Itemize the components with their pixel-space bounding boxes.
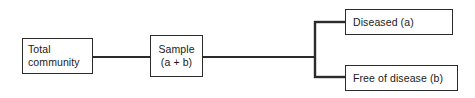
- node-sample: Sample (a + b): [150, 35, 203, 77]
- node-total-community: Total community: [22, 38, 93, 74]
- node-diseased: Diseased (a): [345, 9, 453, 35]
- node-total-community-line-1: Total: [28, 43, 51, 56]
- node-sample-line-2: (a + b): [161, 56, 192, 69]
- node-free-of-disease: Free of disease (b): [345, 65, 458, 91]
- node-free-of-disease-label: Free of disease (b): [353, 72, 443, 85]
- node-diseased-label: Diseased (a): [353, 16, 414, 29]
- node-sample-line-1: Sample: [158, 43, 194, 56]
- diagram-canvas: Total community Sample (a + b) Diseased …: [0, 0, 475, 98]
- node-total-community-line-2: community: [28, 56, 80, 69]
